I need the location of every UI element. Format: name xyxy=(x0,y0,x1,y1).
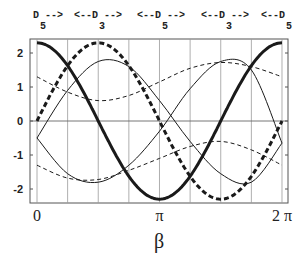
x-tick-label: π xyxy=(155,207,163,224)
y-tick-label: 0 xyxy=(17,115,23,127)
top-annotation: D -->5<--D -->3<--D -->5<--D -->3<--D5 xyxy=(33,10,292,32)
annotation-subscript: 5 xyxy=(162,21,168,32)
annotation-subscript: 3 xyxy=(99,21,105,32)
x-axis-ticks: 0π2 π xyxy=(33,207,292,224)
x-tick-label: 2 π xyxy=(272,207,292,224)
annotation-label: <--D --> xyxy=(201,10,249,21)
chart: D -->5<--D -->3<--D -->5<--D -->3<--D5 2… xyxy=(0,0,305,268)
y-tick-label: -1 xyxy=(13,149,23,161)
annotation-subscript: 5 xyxy=(40,21,46,32)
y-tick-label: 1 xyxy=(17,81,23,93)
annotation-label: D --> xyxy=(33,10,63,21)
y-tick-label: 2 xyxy=(17,47,23,59)
annotation-subscript: 5 xyxy=(286,21,292,32)
annotation-label: <--D xyxy=(261,10,285,21)
annotation-subscript: 3 xyxy=(226,21,232,32)
annotation-label: <--D --> xyxy=(137,10,185,21)
annotation-label: <--D --> xyxy=(74,10,122,21)
x-axis-label: β xyxy=(154,230,164,253)
x-tick-label: 0 xyxy=(33,207,41,224)
y-tick-label: -2 xyxy=(13,183,23,195)
